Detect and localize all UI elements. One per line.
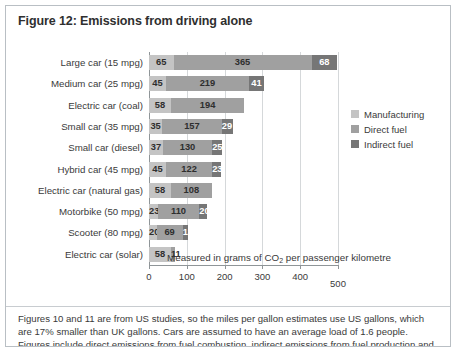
bar-row-label: Electric car (natural gas) <box>6 180 143 201</box>
bar-row-label: Small car (diesel) <box>6 137 143 158</box>
bar-track: 4521941 <box>149 76 264 91</box>
x-tick-label-500: 500 <box>318 278 358 289</box>
x-axis-line <box>149 265 339 266</box>
bar-track: 58108 <box>149 183 212 198</box>
x-tick-mark-0 <box>149 265 150 269</box>
bar-row: Large car (15 mpg)6536568 <box>6 52 451 73</box>
bar-segment-value: 58 <box>149 183 171 198</box>
bar-segment-value: 122 <box>166 162 212 177</box>
bar-segment-value: 110 <box>158 204 200 219</box>
bar-segment-value: 23 <box>212 162 221 177</box>
chart-legend: ManufacturingDirect fuelIndirect fuel <box>351 106 451 151</box>
bar-row: Medium car (25 mpg)4521941 <box>6 73 451 94</box>
bar-row-label: Electric car (solar) <box>6 244 143 265</box>
bar-track: 4512223 <box>149 162 221 177</box>
bar-segment-value: 41 <box>249 76 264 91</box>
bar-track: 206913 <box>149 225 188 240</box>
bar-row-label: Large car (15 mpg) <box>6 52 143 73</box>
x-axis-caption: Measured in grams of CO2 per passenger k… <box>149 252 409 263</box>
bar-row-label: Scooter (80 mpg) <box>6 222 143 243</box>
bar-segment-value: 108 <box>171 183 212 198</box>
bar-row: Motorbike (50 mpg)2311020 <box>6 201 451 222</box>
x-tick-mark-200 <box>225 265 226 269</box>
legend-item[interactable]: Indirect fuel <box>351 136 451 151</box>
legend-label: Indirect fuel <box>364 139 413 150</box>
x-tick-mark-500 <box>338 265 339 269</box>
legend-item[interactable]: Manufacturing <box>351 106 451 121</box>
x-tick-mark-300 <box>262 265 263 269</box>
figure-card: Figure 12: Emissions from driving alone … <box>5 5 451 347</box>
bar-segment-value: 13 <box>183 225 188 240</box>
bar-row: Scooter (80 mpg)206913 <box>6 222 451 243</box>
x-axis-caption-subscript: 2 <box>279 257 283 264</box>
x-tick-mark-100 <box>187 265 188 269</box>
bar-track: 3515729 <box>149 119 233 134</box>
bar-track: 3713025 <box>149 140 222 155</box>
bar-row-label: Hybrid car (45 mpg) <box>6 159 143 180</box>
legend-swatch-icon <box>351 125 359 133</box>
bar-segment-value: 69 <box>157 225 183 240</box>
bar-segment-value: 68 <box>312 55 338 70</box>
legend-swatch-icon <box>351 110 359 118</box>
x-tick-label-400: 400 <box>280 271 320 282</box>
x-axis-caption-prefix: Measured in grams of CO <box>167 252 279 263</box>
bar-track: 2311020 <box>149 204 207 219</box>
bar-segment-value: 219 <box>166 76 249 91</box>
bar-track: 58194 <box>149 98 244 113</box>
bar-segment-value: 37 <box>149 140 163 155</box>
bar-row-label: Small car (35 mpg) <box>6 116 143 137</box>
bar-segment-value: 25 <box>212 140 221 155</box>
bar-row-label: Motorbike (50 mpg) <box>6 201 143 222</box>
x-tick-mark-400 <box>300 265 301 269</box>
bar-segment-value: 29 <box>222 119 233 134</box>
footnote-divider <box>6 306 451 307</box>
bar-segment-value: 130 <box>163 140 212 155</box>
bar-segment-value: 45 <box>149 76 166 91</box>
bar-segment-value: 365 <box>174 55 312 70</box>
figure-footnote: Figures 10 and 11 are from US studies, s… <box>18 312 440 347</box>
x-axis-caption-suffix: per passenger kilometre <box>283 252 391 263</box>
bar-segment-value: 157 <box>162 119 221 134</box>
bar-row: Hybrid car (45 mpg)4512223 <box>6 159 451 180</box>
bar-segment-value: 35 <box>149 119 162 134</box>
bar-row-label: Electric car (coal) <box>6 95 143 116</box>
bar-segment-value: 194 <box>171 98 244 113</box>
x-tick-label-300: 300 <box>242 271 282 282</box>
bar-segment-value: 58 <box>149 98 171 113</box>
bar-segment-value: 20 <box>149 225 157 240</box>
bar-segment-value: 20 <box>199 204 207 219</box>
bar-segment-value: 45 <box>149 162 166 177</box>
figure-title: Figure 12: Emissions from driving alone <box>18 14 252 28</box>
legend-item[interactable]: Direct fuel <box>351 121 451 136</box>
legend-label: Direct fuel <box>364 124 407 135</box>
bar-track: 6536568 <box>149 55 337 70</box>
bar-row-label: Medium car (25 mpg) <box>6 73 143 94</box>
bar-segment-value: 65 <box>149 55 174 70</box>
bar-row: Electric car (natural gas)58108 <box>6 180 451 201</box>
x-tick-label-0: 0 <box>129 271 169 282</box>
x-tick-label-200: 200 <box>205 271 245 282</box>
bar-segment-value: 23 <box>149 204 158 219</box>
legend-swatch-icon <box>351 140 359 148</box>
legend-label: Manufacturing <box>364 109 424 120</box>
x-tick-label-100: 100 <box>167 271 207 282</box>
